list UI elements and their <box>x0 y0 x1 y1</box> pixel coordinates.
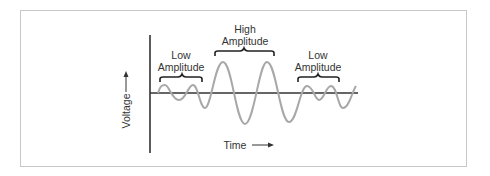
label-line1: High <box>215 23 275 35</box>
y-axis-label: Voltage <box>120 91 132 131</box>
brace-low-amplitude-start <box>160 74 202 82</box>
label-line1: Low <box>155 49 207 61</box>
label-low-amplitude-start: Low Amplitude <box>155 49 207 73</box>
x-axis-label: Time <box>220 139 250 151</box>
label-line1: Low <box>292 49 344 61</box>
time-arrow-icon <box>252 143 274 148</box>
label-high-amplitude: High Amplitude <box>215 23 275 47</box>
brace-high-amplitude <box>215 48 274 56</box>
label-low-amplitude-end: Low Amplitude <box>292 49 344 73</box>
voltage-arrow-icon <box>124 71 129 92</box>
label-line2: Amplitude <box>155 61 207 73</box>
label-line2: Amplitude <box>292 61 344 73</box>
label-line2: Amplitude <box>215 35 275 47</box>
brace-low-amplitude-end <box>298 74 339 82</box>
